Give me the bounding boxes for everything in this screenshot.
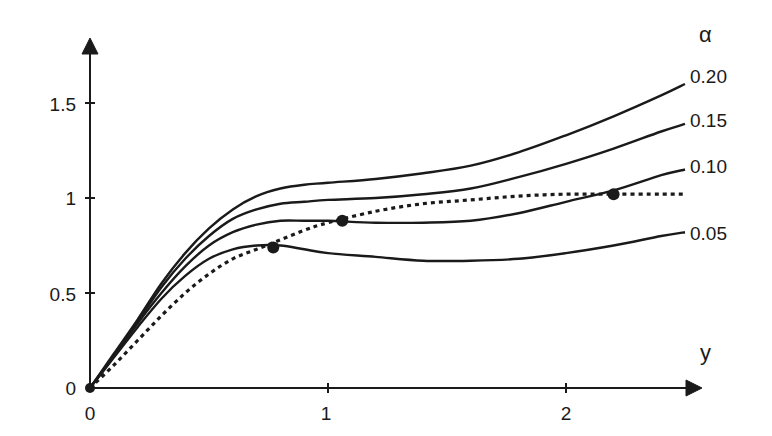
y-tick-label-0: 0: [36, 379, 76, 398]
chart-plot-area: [0, 0, 772, 436]
marker-dot: [85, 383, 95, 393]
y-tick-label-1-5: 1.5: [36, 95, 76, 114]
legend-title-alpha: α: [699, 24, 712, 46]
x-tick-label-0: 0: [75, 404, 105, 423]
series-label-0-15: 0.15: [690, 111, 727, 130]
x-axis-title: y: [700, 342, 711, 364]
series-curve-alpha-0-15: [90, 124, 685, 388]
series-curve-alpha-0-20: [90, 84, 685, 388]
series-curves: [90, 84, 685, 388]
series-label-0-05: 0.05: [690, 224, 727, 243]
x-tick-label-1: 1: [311, 404, 341, 423]
marker-dot: [267, 241, 279, 253]
series-label-0-20: 0.20: [690, 67, 727, 86]
marker-dot: [336, 215, 348, 227]
x-axis-arrow-icon: [686, 380, 702, 396]
marker-dot: [608, 188, 620, 200]
y-tick-label-1: 1: [36, 189, 76, 208]
y-axis-arrow-icon: [82, 38, 98, 54]
axes: [82, 38, 702, 396]
series-curve-alpha-0-05: [90, 232, 685, 388]
series-curve-alpha-0-10: [90, 170, 685, 389]
y-tick-label-0-5: 0.5: [36, 285, 76, 304]
markers: [85, 188, 620, 393]
x-tick-label-2: 2: [551, 404, 581, 423]
series-label-0-10: 0.10: [690, 157, 727, 176]
